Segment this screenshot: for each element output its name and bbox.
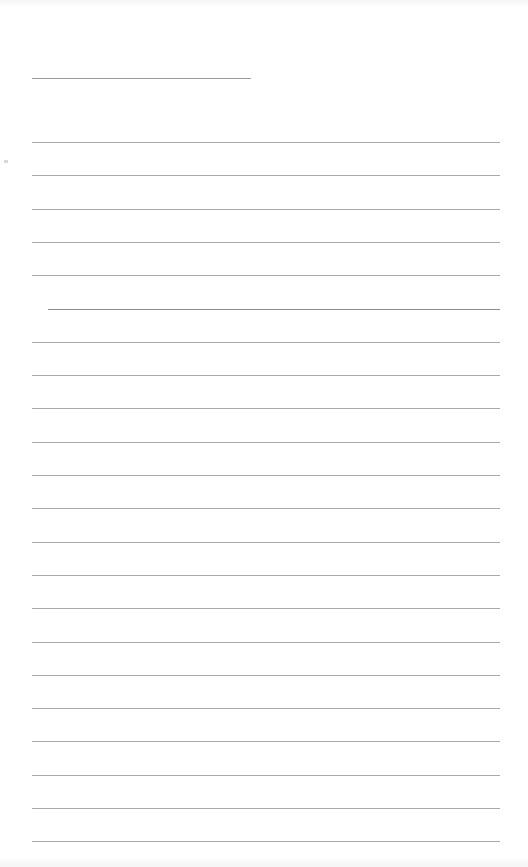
scan-edge-bottom [0,857,528,867]
header-write-line [32,78,251,79]
margin-mark [4,160,8,163]
rule-line [32,542,500,543]
rule-line [32,741,500,742]
rule-line [32,242,500,243]
rule-line [32,508,500,509]
rule-line [32,275,500,276]
rule-line [32,575,500,576]
rule-line [32,142,500,143]
rule-line [32,642,500,643]
rule-line [48,309,500,310]
rule-line [32,841,500,842]
rule-line [32,442,500,443]
scan-edge-top [0,0,528,8]
lined-page [0,0,528,867]
rule-line [32,408,500,409]
rule-line [32,708,500,709]
rule-line [32,808,500,809]
rule-line [32,675,500,676]
rule-line [32,375,500,376]
rule-line [32,209,500,210]
rule-line [32,608,500,609]
rule-line [32,475,500,476]
rule-line [32,775,500,776]
rule-line [32,342,500,343]
rule-line [32,175,500,176]
